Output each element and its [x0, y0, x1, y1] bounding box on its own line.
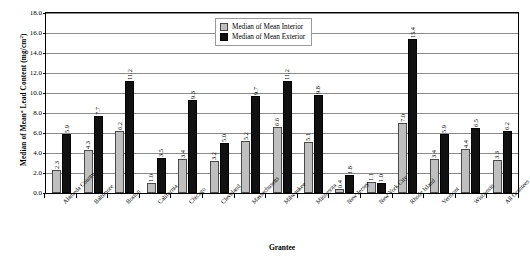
bar-interior[interactable]: 5.2 — [241, 141, 250, 193]
bar-value-label: 3.3 — [493, 151, 500, 159]
bar-group: 4.37.7 — [77, 13, 108, 193]
bar-interior[interactable]: 0.4 — [335, 189, 344, 193]
x-label-cell: Chicago — [171, 198, 203, 243]
bar-exterior[interactable]: 11.2 — [125, 81, 134, 193]
bar-group: 4.46.5 — [455, 13, 486, 193]
bar-group: 3.36.2 — [487, 13, 518, 193]
bar-value-label: 6.6 — [273, 118, 280, 126]
bar-value-label: 6.2 — [503, 122, 510, 130]
bar-value-label: 5.9 — [440, 125, 447, 133]
bar-value-label: 1.0 — [147, 174, 154, 182]
bar-group: 0.41.8 — [329, 13, 360, 193]
y-tick-label: 16.0 — [30, 29, 42, 37]
legend-swatch-exterior — [220, 33, 228, 41]
bar-exterior[interactable]: 6.5 — [471, 128, 480, 193]
bar-interior[interactable]: 3.2 — [210, 161, 219, 193]
bar-value-label: 4.4 — [462, 140, 469, 148]
bar-interior[interactable]: 1.0 — [147, 183, 156, 193]
x-label-cell: Baltimore — [77, 198, 109, 243]
bar-exterior[interactable]: 7.7 — [94, 116, 103, 193]
x-axis-title: Grantee — [45, 243, 519, 252]
x-label-cell: Boston — [108, 198, 140, 243]
bar-exterior[interactable]: 9.3 — [188, 100, 197, 193]
x-label-cell: New York City — [361, 198, 393, 243]
bar-exterior[interactable]: 3.5 — [157, 158, 166, 193]
bar-exterior[interactable]: 5.0 — [220, 143, 229, 193]
x-label-cell: Vermont — [424, 198, 456, 243]
y-tick-label: 6.0 — [33, 129, 42, 137]
y-tick-label: 4.0 — [33, 149, 42, 157]
bar-value-label: 3.4 — [179, 150, 186, 158]
bar-value-label: 5.2 — [242, 132, 249, 140]
bar-exterior[interactable]: 5.9 — [440, 134, 449, 193]
x-label-cell: Wisconsin — [456, 198, 488, 243]
bar-value-label: 5.0 — [220, 134, 227, 142]
bar-value-label: 3.2 — [210, 152, 217, 160]
y-tick-label: 0.0 — [33, 189, 42, 197]
x-label-cell: Minnesota — [298, 198, 330, 243]
y-axis-title-text: Median of Meana Lead Content (mg/cm2) — [20, 33, 29, 166]
bar-value-label: 5.9 — [63, 125, 70, 133]
x-label-cell: California — [140, 198, 172, 243]
bar-value-label: 9.7 — [252, 87, 259, 95]
legend-label-exterior: Median of Mean Exterior — [232, 32, 305, 42]
bar-value-label: 6.2 — [116, 122, 123, 130]
x-label-cell: Alameda County — [45, 198, 77, 243]
bar-exterior[interactable]: 15.4 — [408, 39, 417, 193]
bar-group: 1.11.0 — [361, 13, 392, 193]
bar-value-label: 7.0 — [399, 114, 406, 122]
bar-value-label: 6.5 — [472, 119, 479, 127]
bar-group: 3.45.9 — [424, 13, 455, 193]
x-label-cell: Massachusetts — [235, 198, 267, 243]
x-label-cell: All Grantees — [487, 198, 519, 243]
legend-item-exterior: Median of Mean Exterior — [220, 32, 305, 42]
bar-value-label: 9.8 — [314, 86, 321, 94]
bar-value-label: 7.7 — [94, 107, 101, 115]
y-tick-label: 18.0 — [30, 9, 42, 17]
bar-value-label: 9.3 — [189, 91, 196, 99]
bar-interior[interactable]: 3.4 — [178, 159, 187, 193]
bar-exterior[interactable]: 9.8 — [314, 95, 323, 193]
y-tick-label: 14.0 — [30, 49, 42, 57]
bar-value-label: 1.8 — [346, 166, 353, 174]
bar-interior[interactable]: 3.3 — [493, 160, 502, 193]
bar-exterior[interactable]: 5.9 — [62, 134, 71, 193]
bar-value-label: 1.0 — [377, 174, 384, 182]
bar-value-label: 3.5 — [157, 149, 164, 157]
bar-interior[interactable]: 2.3 — [52, 170, 61, 193]
bar-value-label: 11.2 — [283, 69, 290, 80]
bar-value-label: 5.1 — [304, 133, 311, 141]
x-label-cell: New Jersey — [329, 198, 361, 243]
bar-interior[interactable]: 4.4 — [461, 149, 470, 193]
bar-value-label: 15.4 — [409, 27, 416, 38]
bar-interior[interactable]: 6.2 — [115, 131, 124, 193]
bar-value-label: 11.2 — [126, 69, 133, 80]
bar-value-label: 1.1 — [367, 173, 374, 181]
legend-item-interior: Median of Mean Interior — [220, 22, 305, 32]
bar-group: 1.03.5 — [140, 13, 171, 193]
y-tick-label: 10.0 — [30, 89, 42, 97]
bar-value-label: 3.4 — [430, 150, 437, 158]
bar-exterior[interactable]: 6.2 — [503, 131, 512, 193]
bar-exterior[interactable]: 9.7 — [251, 96, 260, 193]
y-tick-label: 2.0 — [33, 169, 42, 177]
x-label-cell: Cleveland — [203, 198, 235, 243]
bar-group: 3.49.3 — [172, 13, 203, 193]
legend-label-interior: Median of Mean Interior — [232, 22, 303, 32]
bar-value-label: 2.3 — [53, 161, 60, 169]
bar-value-label: 4.3 — [84, 141, 91, 149]
bar-group: 2.35.9 — [46, 13, 77, 193]
bar-exterior[interactable]: 11.2 — [283, 81, 292, 193]
x-label-cell: Rhode Island — [393, 198, 425, 243]
legend: Median of Mean Interior Median of Mean E… — [215, 18, 312, 46]
legend-swatch-interior — [220, 23, 228, 31]
bar-group: 7.015.4 — [392, 13, 423, 193]
x-axis-labels: Alameda CountyBaltimoreBostonCaliforniaC… — [45, 198, 519, 243]
y-axis-title: Median of Meana Lead Content (mg/cm2) — [19, 15, 28, 185]
y-tick-label: 8.0 — [33, 109, 42, 117]
x-label-cell: Milwaukee — [266, 198, 298, 243]
bar-group: 6.211.2 — [109, 13, 140, 193]
y-tick-label: 12.0 — [30, 69, 42, 77]
